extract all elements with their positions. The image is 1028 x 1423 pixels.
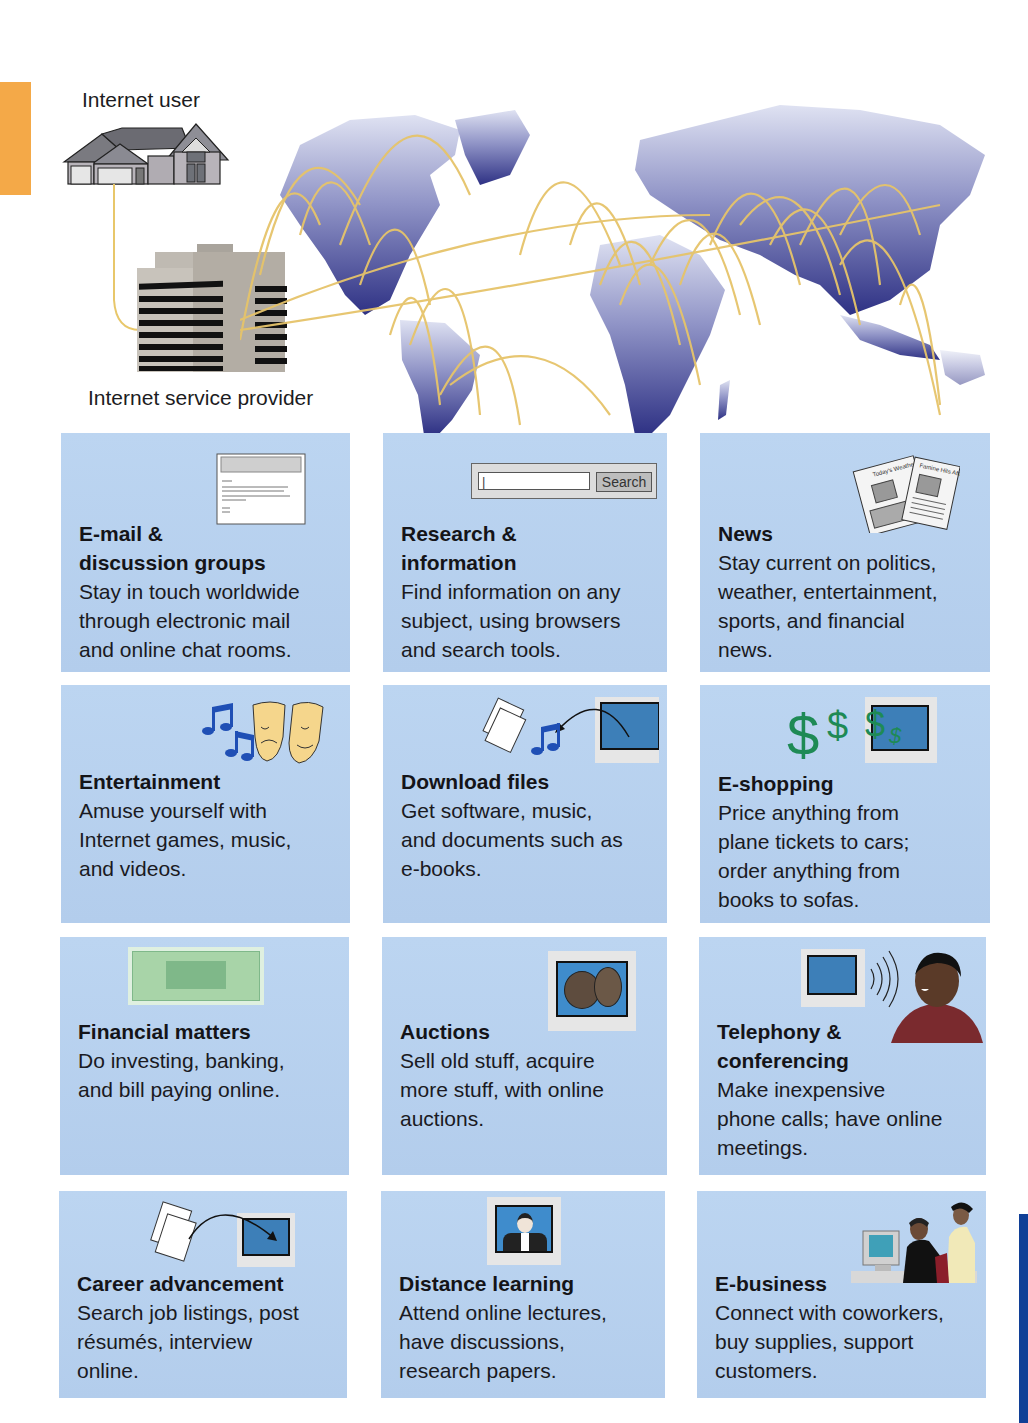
blue-page-tab	[1019, 1214, 1028, 1423]
panel-description: Make inexpensive phone calls; have onlin…	[717, 1075, 980, 1162]
panel-financial: Financial matters Do investing, banking,…	[60, 937, 349, 1175]
banknote-icon	[128, 947, 264, 1005]
panel-description: Get software, music, and documents such …	[401, 796, 661, 883]
upload-resume-icon	[149, 1199, 309, 1273]
panel-email: E-mail & discussion groups Stay in touch…	[61, 433, 350, 672]
house-icon	[62, 122, 230, 188]
panel-description: Do investing, banking, and bill paying o…	[78, 1046, 343, 1104]
panel-title: Entertainment	[79, 767, 344, 796]
panel-ebusiness: E-business Connect with coworkers, buy s…	[697, 1191, 986, 1398]
panel-distance-learning: Distance learning Attend online lectures…	[381, 1191, 665, 1398]
panel-description: Sell old stuff, acquire more stuff, with…	[400, 1046, 661, 1133]
monitor-icon	[801, 949, 865, 1007]
svg-text:$: $	[865, 704, 885, 745]
svg-text:$: $	[787, 702, 819, 767]
panel-title: Auctions	[400, 1017, 661, 1046]
panel-description: Stay in touch worldwide through electron…	[79, 577, 344, 664]
world-map	[240, 85, 1010, 435]
panel-description: Price anything from plane tickets to car…	[718, 798, 984, 914]
theater-masks-icon	[201, 697, 331, 765]
panel-news: Today's Weather Famine Hits Africa News …	[700, 433, 990, 672]
email-window-icon	[216, 453, 306, 525]
search-box-icon: | Search	[471, 463, 657, 499]
search-input-illustration: |	[478, 472, 590, 490]
panel-title: Career advancement	[77, 1269, 341, 1298]
panel-entertainment: Entertainment Amuse yourself with Intern…	[61, 685, 350, 923]
panel-description: Search job listings, post résumés, inter…	[77, 1298, 341, 1385]
panel-title: Download files	[401, 767, 661, 796]
panel-title: Distance learning	[399, 1269, 659, 1298]
panel-title: News	[718, 519, 984, 548]
panel-eshopping: $ $ $ $ E-shopping Price anything from p…	[700, 685, 990, 923]
panel-description: Find information on any subject, using b…	[401, 577, 661, 664]
svg-text:$: $	[827, 705, 848, 747]
panel-research: | Search Research & information Find inf…	[383, 433, 667, 672]
panel-auctions: Auctions Sell old stuff, acquire more st…	[382, 937, 667, 1175]
panel-title: Research & information	[401, 519, 661, 577]
panel-title: E-shopping	[718, 769, 984, 798]
internet-user-label: Internet user	[82, 88, 200, 112]
panel-description: Stay current on politics, weather, enter…	[718, 548, 984, 664]
panel-download: Download files Get software, music, and …	[383, 685, 667, 923]
panel-description: Attend online lectures, have discussions…	[399, 1298, 659, 1385]
svg-text:$: $	[888, 723, 902, 748]
panel-title: E-business	[715, 1269, 980, 1298]
dollar-signs-icon: $ $ $ $	[785, 691, 945, 767]
panel-description: Connect with coworkers, buy supplies, su…	[715, 1298, 980, 1385]
lecturer-screen-icon	[487, 1197, 561, 1265]
panel-telephony: Telephony & conferencing Make inexpensiv…	[699, 937, 986, 1175]
panel-title: E-mail & discussion groups	[79, 519, 344, 577]
panel-description: Amuse yourself with Internet games, musi…	[79, 796, 344, 883]
search-button-illustration: Search	[596, 472, 652, 492]
panel-title: Financial matters	[78, 1017, 343, 1046]
download-icon	[479, 695, 659, 769]
panel-title: Telephony & conferencing	[717, 1017, 980, 1075]
panel-career: Career advancement Search job listings, …	[59, 1191, 347, 1398]
orange-page-tab	[0, 82, 31, 195]
